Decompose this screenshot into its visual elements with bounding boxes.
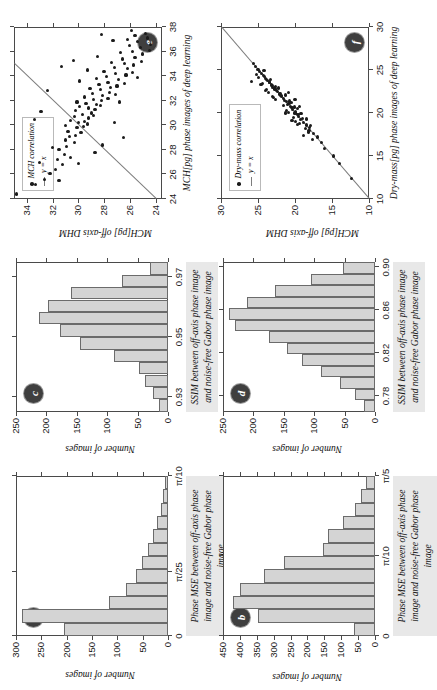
axis-tick — [375, 352, 379, 353]
axis-tick — [168, 396, 172, 397]
histogram-bar — [229, 308, 375, 319]
scatter-point — [78, 79, 81, 82]
legend-item-drymass: Dry-mass correlation — [233, 110, 245, 186]
scatter-point — [140, 60, 143, 63]
axis-tick — [10, 75, 14, 76]
axis-tick — [221, 199, 222, 203]
axis-tick — [10, 51, 14, 52]
axis-tick-label: 0 — [369, 418, 380, 423]
axis-tick-label: 250 — [285, 642, 296, 658]
axis-tick-label: 100 — [101, 418, 112, 434]
scatter-point — [15, 193, 18, 196]
axis-tick — [168, 412, 169, 416]
scatter-point — [316, 136, 319, 139]
scatter-point — [126, 38, 129, 41]
axis-tick-label: 25 — [374, 65, 385, 76]
histogram-bar — [39, 312, 168, 324]
scatter-point — [115, 84, 118, 87]
histogram-bar — [361, 489, 375, 502]
axis-tick — [332, 23, 333, 27]
axis-tick-label: 28 — [167, 145, 178, 156]
axis-tick — [324, 472, 325, 476]
histogram-bar — [264, 569, 375, 582]
axis-tick — [332, 199, 333, 203]
axis-tick — [107, 412, 108, 416]
axis-tick-label: 0.82 — [380, 344, 391, 363]
axis-tick — [223, 472, 224, 476]
scatter-point — [124, 73, 127, 76]
axis-tick — [16, 636, 17, 640]
scatter-point — [130, 29, 133, 32]
histogram-bar — [235, 320, 375, 332]
panel-d-xlabel-caption: SSIM between off-axis phase image and no… — [393, 262, 425, 412]
histogram-bar — [275, 285, 375, 297]
scatter-point — [323, 147, 326, 150]
histogram-bar — [161, 503, 168, 516]
axis-tick — [375, 555, 379, 556]
axis-tick-label: 20 — [374, 108, 385, 119]
panel-f-legend: Dry-mass correlation y = x — [229, 104, 261, 191]
axis-tick-label: 32 — [167, 95, 178, 106]
axis-tick — [240, 472, 241, 476]
axis-tick — [156, 199, 157, 203]
panel-e-ylabel: MCH[pg] off-axis DHM — [59, 228, 152, 238]
histogram-bar — [247, 297, 375, 309]
axis-tick — [345, 258, 346, 262]
panel-e-legend: MCH correlation y = x — [22, 117, 54, 191]
axis-tick-label: 0 — [380, 633, 391, 638]
scatter-point — [48, 172, 51, 175]
axis-tick — [253, 258, 254, 262]
axis-tick — [223, 258, 224, 262]
panel-b: b Number of images Phase MSE between off… — [213, 460, 425, 690]
axis-tick — [375, 309, 379, 310]
axis-tick — [77, 412, 78, 416]
axis-tick — [162, 198, 166, 199]
scatter-point — [64, 138, 67, 141]
axis-tick — [217, 69, 221, 70]
histogram-bar — [355, 503, 375, 516]
axis-tick — [219, 395, 223, 396]
histogram-bar — [258, 609, 375, 622]
scatter-point — [250, 80, 253, 83]
scatter-point — [108, 91, 111, 94]
axis-tick — [12, 571, 16, 572]
axis-tick-label: 34 — [21, 205, 32, 216]
axis-tick — [284, 412, 285, 416]
axis-tick-label: 0.95 — [173, 328, 184, 347]
scatter-point — [144, 32, 147, 35]
axis-tick-label: 0 — [162, 642, 173, 647]
panel-d: d Number of images SSIM between off-axis… — [213, 245, 425, 460]
axis-tick — [219, 352, 223, 353]
axis-tick — [341, 636, 342, 640]
histogram-bar — [287, 343, 375, 355]
axis-tick — [27, 23, 28, 27]
histogram-bar — [159, 399, 168, 412]
histogram-bar — [126, 583, 168, 596]
scatter-point — [106, 81, 109, 84]
axis-tick — [12, 276, 16, 277]
scatter-point — [81, 113, 84, 116]
axis-tick-label: 100 — [308, 418, 319, 434]
axis-tick — [358, 472, 359, 476]
axis-tick-label: 200 — [40, 418, 51, 434]
scatter-point — [93, 108, 96, 111]
histogram-bar — [364, 400, 375, 412]
axis-tick — [16, 258, 17, 262]
axis-tick — [375, 258, 376, 262]
axis-tick — [345, 412, 346, 416]
axis-tick-label: 50 — [352, 642, 363, 653]
axis-tick — [217, 112, 221, 113]
axis-tick — [138, 412, 139, 416]
histogram-bar — [48, 300, 168, 313]
histogram-bar — [328, 529, 375, 542]
scatter-point — [64, 124, 67, 127]
legend-label-yx: y = x — [245, 157, 257, 174]
axis-tick — [341, 472, 342, 476]
axis-tick — [41, 636, 42, 640]
axis-tick — [46, 258, 47, 262]
histogram-bar — [114, 350, 168, 362]
axis-tick — [53, 199, 54, 203]
axis-tick — [375, 472, 376, 476]
histogram-bar — [240, 583, 375, 596]
histogram-bar — [150, 262, 168, 275]
